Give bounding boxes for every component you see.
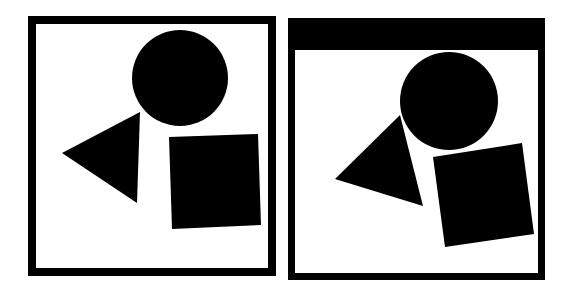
diagram-canvas bbox=[0, 0, 571, 295]
left-square bbox=[169, 134, 261, 229]
left-circle bbox=[132, 30, 228, 126]
right-square bbox=[433, 143, 534, 247]
right-circle bbox=[400, 52, 498, 150]
